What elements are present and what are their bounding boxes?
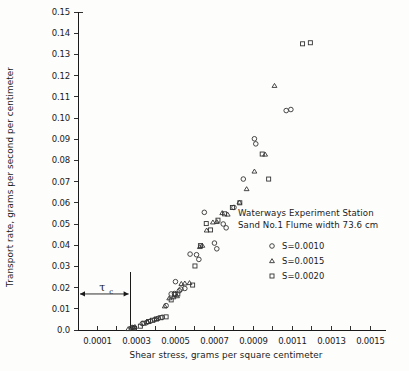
data-point-S00010 bbox=[241, 177, 246, 182]
data-point-S00010 bbox=[197, 257, 202, 262]
y-tick-label: 0.08 bbox=[52, 155, 70, 165]
x-tick-label: 0.0007 bbox=[200, 336, 229, 346]
data-point-S00015 bbox=[182, 281, 187, 285]
y-tick-label: 0.0 bbox=[57, 325, 70, 335]
y-tick-label: 0.15 bbox=[52, 7, 70, 17]
x-tick-label: 0.0001 bbox=[83, 336, 112, 346]
y-tick-label: 0.09 bbox=[52, 134, 70, 144]
data-point-S00010 bbox=[253, 142, 258, 147]
x-tick-label: 0.0003 bbox=[122, 336, 151, 346]
data-point-S00015 bbox=[272, 83, 277, 87]
y-tick-label: 0.05 bbox=[52, 219, 70, 229]
y-tick-label: 0.10 bbox=[52, 113, 70, 123]
data-point-S00010 bbox=[202, 210, 207, 215]
tau-c-label: τ bbox=[99, 281, 105, 294]
data-point-S00015 bbox=[252, 169, 257, 173]
y-tick-label: 0.03 bbox=[52, 261, 70, 271]
data-point-S00015 bbox=[244, 187, 249, 191]
legend-title-line1: Waterways Experiment Station bbox=[238, 208, 374, 218]
y-tick-label: 0.12 bbox=[52, 71, 70, 81]
data-point-S00010 bbox=[173, 279, 178, 284]
x-tick-label: 0.0015 bbox=[356, 336, 385, 346]
data-point-S00015 bbox=[263, 152, 268, 156]
data-point-S00010 bbox=[252, 136, 257, 141]
y-tick-label: 0.01 bbox=[52, 304, 70, 314]
data-point-S00010 bbox=[224, 226, 229, 231]
x-axis-title: Shear stress, grams per square centimete… bbox=[130, 350, 323, 360]
legend-title-line2: Sand No.1 Flume width 73.6 cm bbox=[238, 220, 378, 230]
x-tick-label: 0.0013 bbox=[317, 336, 346, 346]
x-tick-label: 0.0005 bbox=[161, 336, 190, 346]
y-tick-label: 0.04 bbox=[52, 240, 70, 250]
data-point-S00010 bbox=[188, 252, 193, 257]
legend-marker-triangle bbox=[270, 259, 275, 263]
data-point-S00020 bbox=[267, 177, 271, 181]
tau-c-subscript: c bbox=[109, 288, 113, 296]
data-point-S00010 bbox=[289, 107, 294, 112]
x-tick-label: 0.0011 bbox=[278, 336, 307, 346]
data-point-S00020 bbox=[301, 42, 305, 46]
data-point-S00010 bbox=[194, 252, 199, 257]
data-point-S00010 bbox=[284, 108, 289, 113]
data-point-S00010 bbox=[212, 241, 217, 246]
y-tick-label: 0.14 bbox=[52, 28, 70, 38]
data-point-S00015 bbox=[187, 281, 192, 285]
plot-canvas: 0.00.010.020.030.040.050.060.070.080.090… bbox=[0, 0, 409, 371]
data-point-S00020 bbox=[204, 222, 208, 226]
scatter-plot-figure: 0.00.010.020.030.040.050.060.070.080.090… bbox=[0, 0, 409, 371]
legend-label-1: S=0.0015 bbox=[282, 256, 324, 266]
y-tick-label: 0.13 bbox=[52, 49, 70, 59]
legend-marker-square bbox=[270, 274, 274, 278]
tau-c-arrowhead-left bbox=[80, 291, 85, 296]
y-tick-label: 0.07 bbox=[52, 177, 70, 187]
plot-axes bbox=[78, 12, 386, 330]
legend-marker-circle bbox=[270, 244, 275, 249]
tau-c-arrowhead-right bbox=[124, 291, 129, 296]
data-point-S00015 bbox=[214, 220, 219, 224]
y-tick-label: 0.11 bbox=[52, 92, 70, 102]
y-axis-title: Transport rate, grams per second per cen… bbox=[5, 67, 15, 288]
legend-label-2: S=0.0020 bbox=[282, 271, 324, 281]
y-tick-label: 0.06 bbox=[52, 198, 70, 208]
y-tick-label: 0.02 bbox=[52, 283, 70, 293]
data-point-S00010 bbox=[214, 247, 219, 252]
legend-label-0: S=0.0010 bbox=[282, 241, 324, 251]
data-point-S00020 bbox=[308, 41, 312, 45]
x-tick-label: 0.0009 bbox=[239, 336, 268, 346]
data-point-S00020 bbox=[193, 264, 197, 268]
